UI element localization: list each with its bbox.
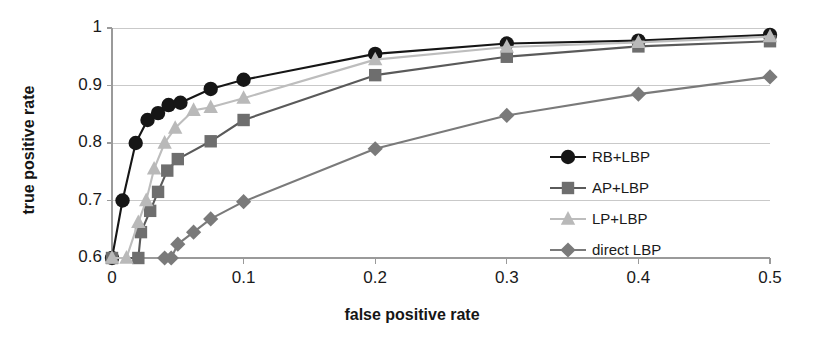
data-point-3-8	[631, 87, 646, 102]
data-point-1-7	[205, 135, 217, 147]
data-point-1-3	[144, 205, 156, 217]
data-point-1-1	[132, 252, 144, 264]
legend-label: AP+LBP	[592, 179, 649, 197]
data-point-1-4	[152, 186, 164, 198]
y-tick-label-0: 0.6	[50, 247, 102, 267]
roc-chart: false positive rate true positive rate 0…	[0, 0, 824, 338]
x-tick-label-5: 0.5	[740, 268, 800, 288]
y-axis-title-wrap: true positive rate	[20, 60, 40, 240]
data-point-0-2	[128, 136, 142, 150]
x-tick-label-2: 0.2	[345, 268, 405, 288]
legend-marker-diamond-icon	[548, 241, 588, 259]
data-point-3-9	[762, 69, 777, 84]
x-tick-label-1: 0.1	[214, 268, 274, 288]
data-point-1-9	[369, 69, 381, 81]
data-point-2-2	[131, 214, 145, 228]
legend-marker	[560, 242, 575, 257]
data-point-3-7	[499, 108, 514, 123]
data-point-2-3	[139, 193, 153, 207]
data-point-0-8	[236, 73, 250, 87]
legend-marker	[561, 211, 575, 225]
legend-marker-triangle-icon	[548, 210, 588, 228]
legend-marker-circle-icon	[548, 148, 588, 166]
legend-label: LP+LBP	[592, 210, 647, 228]
y-tick-label-4: 1	[50, 17, 102, 37]
series-line-3	[165, 77, 770, 258]
x-tick-label-0: 0	[82, 268, 142, 288]
data-point-0-6	[173, 96, 187, 110]
legend-marker	[561, 150, 575, 164]
x-axis-title: false positive rate	[0, 306, 824, 324]
y-axis-title: true positive rate	[20, 60, 38, 240]
data-point-2-4	[147, 161, 161, 175]
y-tick-label-2: 0.8	[50, 132, 102, 152]
data-point-1-6	[172, 153, 184, 165]
data-point-0-7	[204, 82, 218, 96]
x-tick-label-4: 0.4	[608, 268, 668, 288]
y-tick-label-3: 0.9	[50, 75, 102, 95]
y-tick-label-1: 0.7	[50, 190, 102, 210]
series-direct-lbp	[157, 69, 778, 265]
data-point-3-5	[236, 194, 251, 209]
data-point-1-5	[161, 164, 173, 176]
data-point-0-1	[115, 193, 129, 207]
data-point-2-1	[119, 250, 133, 264]
series-ap-lbp	[106, 35, 776, 264]
x-tick-label-3: 0.3	[477, 268, 537, 288]
legend-label: RB+LBP	[592, 148, 650, 166]
legend-label: direct LBP	[592, 241, 661, 259]
legend-marker	[562, 182, 574, 194]
legend-marker-square-icon	[548, 179, 588, 197]
data-point-1-8	[237, 114, 249, 126]
